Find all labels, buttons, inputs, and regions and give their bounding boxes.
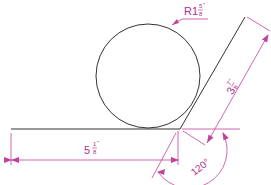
horizontal-dimension-label: 5 1 8 " bbox=[84, 140, 99, 156]
arrow-down-icon bbox=[207, 135, 214, 144]
tangent-circle bbox=[96, 24, 200, 128]
arrow-left-icon bbox=[11, 157, 19, 163]
svg-text:": " bbox=[203, 2, 205, 8]
extension-line-incline-bottom bbox=[183, 131, 205, 145]
angle-label: 120° bbox=[189, 156, 212, 177]
svg-text:R1: R1 bbox=[184, 5, 198, 17]
svg-text:8: 8 bbox=[199, 11, 203, 17]
svg-text:5: 5 bbox=[84, 144, 90, 156]
technical-drawing: 5 1 8 " 3 7 8 " 120° R1 5 8 " bbox=[0, 0, 271, 185]
angle-arc bbox=[158, 133, 227, 185]
svg-text:8: 8 bbox=[93, 149, 97, 155]
radius-label: R1 5 8 " bbox=[184, 2, 205, 17]
inclined-dimension-label: 3 7 8 " bbox=[222, 78, 241, 96]
inclined-line bbox=[180, 17, 245, 129]
svg-text:": " bbox=[97, 140, 99, 146]
arrow-radius-icon bbox=[172, 19, 179, 25]
arrow-angle-left-icon bbox=[157, 169, 165, 175]
extension-line-incline-top bbox=[247, 17, 270, 31]
